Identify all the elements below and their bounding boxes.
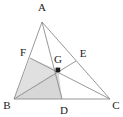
label-point-d: D [60,104,68,116]
label-point-c: C [112,99,119,111]
label-point-b: B [3,99,10,111]
label-point-f: F [20,46,26,58]
triangle-figure-svg: A B C D E F G [0,0,123,117]
label-point-g: G [54,53,62,65]
geometry-diagram: A B C D E F G [0,0,123,117]
label-point-a: A [38,1,46,13]
point-marker-g [56,68,61,73]
label-point-e: E [80,47,87,59]
